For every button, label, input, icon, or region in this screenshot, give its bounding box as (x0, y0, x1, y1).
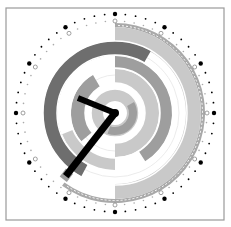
hour-dot (27, 61, 31, 65)
minute-dot (74, 22, 76, 24)
hour-dot (199, 61, 203, 65)
inner-tick-dot (53, 181, 55, 183)
inner-tick-dot (206, 122, 208, 124)
inner-tick-dot (205, 111, 209, 115)
minute-dot (34, 54, 36, 56)
minute-dot (180, 186, 182, 188)
inner-tick-dot (95, 22, 97, 24)
hour-dot (113, 12, 117, 16)
minute-dot (56, 192, 58, 194)
inner-tick-dot (60, 187, 62, 189)
inner-tick-dot (204, 93, 206, 95)
minute-dot (124, 211, 126, 213)
inner-tick-dot (23, 122, 25, 124)
minute-dot (194, 54, 196, 56)
minute-dot (154, 22, 156, 24)
minute-dot (213, 122, 215, 124)
minute-dot (16, 122, 18, 124)
minute-dot (135, 209, 137, 211)
minute-dot (172, 192, 174, 194)
inner-tick-dot (30, 75, 32, 77)
minute-dot (20, 143, 22, 145)
inner-tick-dot (60, 38, 62, 40)
minute-dot (180, 39, 182, 41)
inner-tick-dot (24, 93, 26, 95)
inner-tick-dot (168, 187, 170, 189)
minute-dot (94, 15, 96, 17)
inner-tick-dot (193, 157, 197, 161)
minute-dot (124, 14, 126, 16)
hour-dot (113, 210, 117, 214)
inner-tick-dot (183, 51, 185, 53)
minute-dot (104, 14, 106, 16)
inner-tick-dot (23, 103, 25, 105)
inner-tick-dot (77, 196, 79, 198)
inner-tick-dot (24, 131, 26, 133)
inner-tick-dot (206, 103, 208, 105)
inner-tick-dot (95, 202, 97, 204)
minute-dot (194, 170, 196, 172)
minute-dot (20, 82, 22, 84)
inner-tick-dot (86, 25, 88, 27)
inner-tick-dot (176, 181, 178, 183)
inner-tick-dot (133, 22, 135, 24)
inner-tick-dot (33, 157, 37, 161)
hour-dot (63, 25, 67, 29)
inner-tick-dot (204, 131, 206, 133)
inner-tick-dot (189, 58, 191, 60)
inner-tick-dot (183, 174, 185, 176)
minute-dot (145, 18, 147, 20)
minute-dot (213, 102, 215, 104)
minute-dot (56, 32, 58, 34)
hour-dot (27, 160, 31, 164)
inner-tick-dot (124, 21, 126, 23)
minute-dot (48, 39, 50, 41)
hour-dot (212, 111, 216, 115)
inner-tick-dot (67, 31, 71, 35)
inner-tick-dot (198, 150, 200, 152)
inner-tick-dot (27, 141, 29, 143)
minute-dot (84, 206, 86, 208)
polar-clock (0, 0, 231, 227)
inner-tick-dot (133, 202, 135, 204)
minute-dot (84, 18, 86, 20)
minute-dot (24, 152, 26, 154)
minute-dot (17, 92, 19, 94)
hour-dot (63, 197, 67, 201)
inner-tick-dot (143, 25, 145, 27)
inner-tick-dot (202, 141, 204, 143)
minute-dot (188, 178, 190, 180)
inner-tick-dot (198, 75, 200, 77)
inner-tick-dot (67, 191, 71, 195)
inner-tick-dot (152, 196, 154, 198)
inner-tick-dot (202, 84, 204, 86)
inner-tick-dot (33, 65, 37, 69)
minute-dot (94, 209, 96, 211)
inner-tick-dot (46, 174, 48, 176)
minute-dot (74, 203, 76, 205)
hour-dot (14, 111, 18, 115)
inner-tick-dot (159, 31, 163, 35)
minute-dot (188, 46, 190, 48)
minute-dot (24, 72, 26, 74)
minute-dot (48, 186, 50, 188)
inner-tick-dot (152, 28, 154, 30)
inner-tick-dot (113, 203, 117, 207)
center-hub (111, 109, 119, 117)
inner-tick-dot (46, 51, 48, 53)
minute-dot (41, 178, 43, 180)
minute-dot (16, 102, 18, 104)
inner-tick-dot (189, 166, 191, 168)
minute-dot (34, 170, 36, 172)
minute-dot (205, 72, 207, 74)
minute-dot (17, 133, 19, 135)
minute-dot (205, 152, 207, 154)
inner-tick-dot (105, 21, 107, 23)
minute-dot (211, 133, 213, 135)
inner-tick-dot (159, 191, 163, 195)
inner-tick-dot (40, 58, 42, 60)
inner-tick-dot (105, 204, 107, 206)
inner-tick-dot (86, 200, 88, 202)
inner-tick-dot (168, 38, 170, 40)
hour-dot (162, 25, 166, 29)
